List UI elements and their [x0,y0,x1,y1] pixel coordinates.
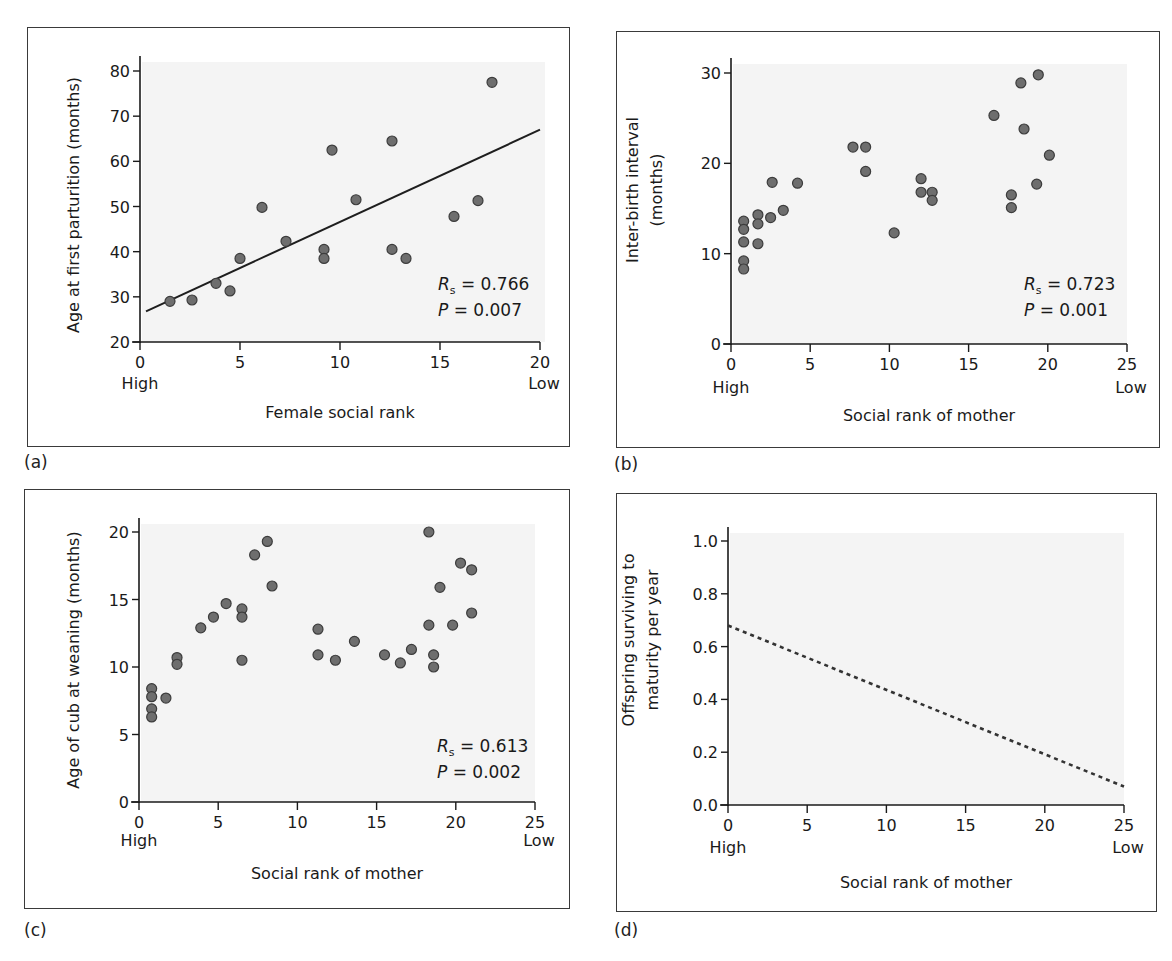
data-point [861,166,871,176]
data-point [449,211,459,221]
data-point [327,145,337,155]
data-point [225,286,235,296]
data-point [147,712,157,722]
data-point [313,624,323,634]
x-high-label: High [713,378,750,397]
data-point [237,612,247,622]
data-point [349,636,359,646]
data-point [739,264,749,274]
data-point [387,244,397,254]
data-point [1016,78,1026,88]
y-tick-label: 0 [119,793,129,812]
data-point [753,219,763,229]
data-point [221,599,231,609]
p-value: P = 0.002 [437,762,521,782]
x-tick-label: 15 [958,355,978,374]
x-tick-label: 10 [879,355,899,374]
data-point [281,236,291,246]
y-tick-label: 15 [109,591,129,610]
x-tick-label: 20 [1038,355,1058,374]
data-point [989,110,999,120]
x-tick-label: 15 [430,353,450,372]
data-point [406,644,416,654]
data-point [319,253,329,263]
y-tick-label: 0.6 [693,638,718,657]
y-axis-title: Offspring surviving tomaturity per year [619,554,662,727]
y-tick-label: 60 [110,152,130,171]
x-tick-label: 25 [1114,816,1134,835]
data-point [395,658,405,668]
data-point [435,582,445,592]
data-point [424,527,434,537]
data-point [237,655,247,665]
x-tick-label: 0 [135,353,145,372]
data-point [380,650,390,660]
data-point [147,692,157,702]
data-point [448,620,458,630]
x-tick-label: 20 [530,353,550,372]
x-tick-label: 25 [1117,355,1137,374]
y-axis-title: Age at first parturition (months) [64,77,83,333]
data-point [766,213,776,223]
x-tick-label: 20 [1035,816,1055,835]
data-point [267,581,277,591]
data-point [262,536,272,546]
y-tick-label: 10 [701,245,721,264]
x-tick-label: 5 [213,813,223,832]
y-tick-label: 50 [110,198,130,217]
data-point [467,565,477,575]
y-tick-label: 0.0 [693,796,718,815]
x-axis-title: Female social rank [265,403,415,422]
y-axis-title: Inter-birth interval(months) [623,117,666,263]
x-high-label: High [122,374,159,393]
y-tick-label: 0.8 [693,585,718,604]
x-tick-label: 15 [366,813,386,832]
data-point [196,623,206,633]
x-low-label: Low [1112,838,1144,857]
y-tick-label: 30 [701,64,721,83]
y-tick-label: 0.4 [693,690,718,709]
data-point [861,142,871,152]
data-point [165,296,175,306]
x-axis-title: Social rank of mother [843,406,1016,425]
y-tick-label: 1.0 [693,532,718,551]
y-tick-label: 80 [110,62,130,81]
data-point [1006,203,1016,213]
chart-panel-d: 0.00.20.40.60.81.00510152025HighLowSocia… [619,527,1144,892]
data-point [235,253,245,263]
data-point [187,295,197,305]
chart-panel-a: 2030405060708005101520HighLowFemale soci… [64,56,560,422]
x-low-label: Low [528,374,560,393]
x-tick-label: 5 [802,816,812,835]
x-high-label: High [710,838,747,857]
data-point [739,237,749,247]
x-high-label: High [121,831,158,850]
data-point [429,650,439,660]
y-tick-label: 0 [711,335,721,354]
data-point [767,177,777,187]
data-point [456,558,466,568]
y-tick-label: 0.2 [693,743,718,762]
data-point [250,550,260,560]
data-point [161,693,171,703]
data-point [848,142,858,152]
data-point [257,202,267,212]
chart-panel-b: 01020300510152025HighLowSocial rank of m… [623,58,1147,425]
data-point [927,195,937,205]
p-value: P = 0.007 [438,300,522,320]
y-tick-label: 20 [701,154,721,173]
x-tick-label: 5 [805,355,815,374]
p-value: P = 0.001 [1024,300,1108,320]
data-point [793,178,803,188]
plot-area [730,533,1124,805]
data-point [753,239,763,249]
data-point [889,228,899,238]
data-point [473,196,483,206]
data-point [1019,124,1029,134]
data-point [1033,70,1043,80]
y-axis-title: Age of cub at weaning (months) [64,531,83,788]
x-low-label: Low [1115,378,1147,397]
y-tick-label: 70 [110,107,130,126]
data-point [401,253,411,263]
x-tick-label: 15 [955,816,975,835]
